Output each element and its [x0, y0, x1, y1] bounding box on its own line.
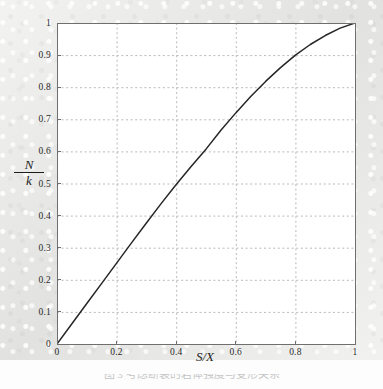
x-tick-mark — [235, 341, 236, 345]
figure-page: S/X N k 图 3 考虑断裂的岩体强度与变形关系 00.10.20.30.4… — [0, 0, 383, 389]
x-tick-mark — [116, 341, 117, 345]
plot-border-right — [355, 23, 356, 345]
y-tick-mark — [57, 87, 61, 88]
x-tick-label: 0 — [40, 347, 74, 357]
x-tick-mark — [295, 341, 296, 345]
x-tick-label: 0.2 — [100, 347, 134, 357]
y-axis-title-numerator: N — [14, 158, 44, 173]
x-tick-label: 0.8 — [278, 347, 312, 357]
figure-caption-text: 图 3 考虑断裂的岩体强度与变形关系 — [0, 374, 383, 381]
y-tick-mark — [57, 279, 61, 280]
y-tick-mark — [57, 151, 61, 152]
y-axis-line — [57, 23, 58, 345]
x-tick-label: 1 — [338, 347, 372, 357]
figure-caption: 图 3 考虑断裂的岩体强度与变形关系 — [0, 374, 383, 389]
y-tick-label: 0.7 — [5, 114, 51, 124]
y-tick-label: 0.5 — [5, 179, 51, 189]
y-tick-label: 0.4 — [5, 211, 51, 221]
y-tick-label: 0.2 — [5, 275, 51, 285]
plot-panel — [57, 23, 355, 344]
y-tick-mark — [57, 311, 61, 312]
y-tick-mark — [57, 247, 61, 248]
y-tick-mark — [57, 55, 61, 56]
y-tick-mark — [57, 344, 61, 345]
y-tick-mark — [57, 183, 61, 184]
y-tick-label: 0.1 — [5, 307, 51, 317]
x-tick-label: 0.6 — [219, 347, 253, 357]
y-tick-label: 0.9 — [5, 50, 51, 60]
y-tick-label: 0.8 — [5, 82, 51, 92]
y-tick-label: 0.6 — [5, 146, 51, 156]
data-curve — [57, 23, 355, 344]
y-tick-mark — [57, 215, 61, 216]
x-tick-label: 0.4 — [159, 347, 193, 357]
y-tick-label: 1 — [5, 18, 51, 28]
y-tick-label: 0.3 — [5, 243, 51, 253]
y-tick-mark — [57, 23, 61, 24]
x-tick-mark — [176, 341, 177, 345]
x-tick-mark — [355, 341, 356, 345]
x-tick-mark — [57, 341, 58, 345]
plot-border-top — [57, 23, 356, 24]
x-axis-line — [57, 344, 356, 345]
y-tick-mark — [57, 119, 61, 120]
